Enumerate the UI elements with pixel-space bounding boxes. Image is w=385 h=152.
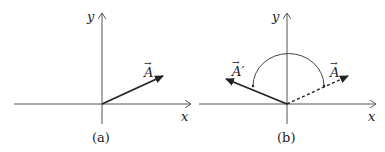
vector-a-prime (226, 79, 287, 104)
rotation-arc (253, 54, 324, 86)
y-axis-label: y (271, 9, 280, 24)
vector-a (102, 76, 163, 104)
vector-rotation-diagram: y x A → (a) y x A′ → A → (b) (0, 0, 385, 152)
vector-a-prime-arrow-accent: → (232, 57, 240, 67)
caption-a: (a) (92, 130, 110, 145)
vector-a-dashed (287, 76, 348, 104)
arc-end-dot (252, 85, 254, 87)
vector-a-arrow-accent: → (144, 58, 152, 68)
x-axis-label: x (368, 109, 376, 124)
caption-b: (b) (277, 130, 295, 145)
vector-a-arrow-accent: → (330, 58, 338, 68)
x-axis-label: x (181, 109, 189, 124)
panel-a: y x A → (a) (14, 9, 191, 145)
y-axis-label: y (86, 9, 95, 24)
panel-b: y x A′ → A → (b) (199, 9, 376, 145)
